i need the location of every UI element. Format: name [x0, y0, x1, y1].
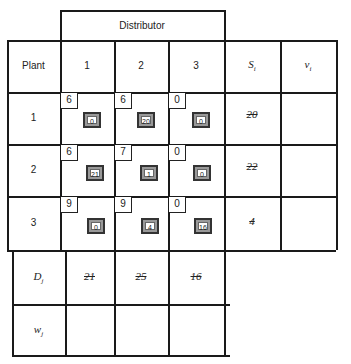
cost-cell: 7 [115, 145, 132, 161]
grid [60, 10, 224, 12]
col-header-1: 1 [60, 60, 114, 71]
allocation-box: 0 [87, 218, 105, 234]
cost-cell: 6 [115, 93, 132, 109]
w-label: wj [12, 323, 65, 338]
cost-cell: 0 [169, 93, 186, 109]
supply-value: 20 [224, 108, 280, 120]
row-label-2: 2 [7, 164, 60, 175]
allocation-box: 16 [194, 218, 212, 234]
col-header-2: 2 [114, 60, 168, 71]
plant-header: Plant [7, 60, 60, 71]
row-label-1: 1 [7, 112, 60, 123]
demand-value: 21 [65, 270, 114, 282]
allocation-box: 0 [83, 112, 101, 128]
v-header: vi [280, 58, 336, 73]
allocation-box: 20 [137, 112, 155, 128]
allocation-box: 0 [192, 112, 210, 128]
cost-cell: 6 [61, 93, 78, 109]
allocation-box: 21 [86, 165, 104, 181]
allocation-box: 1 [140, 165, 158, 181]
col-header-3: 3 [168, 60, 224, 71]
demand-label: Dj [12, 270, 65, 285]
cost-cell: 0 [169, 145, 186, 161]
demand-value: 25 [114, 270, 168, 282]
cost-cell: 9 [61, 197, 78, 213]
demand-value: 16 [168, 270, 224, 282]
distributor-header: Distributor [60, 20, 224, 31]
cost-cell: 6 [61, 145, 78, 161]
cost-cell: 0 [169, 197, 186, 213]
row-label-3: 3 [7, 217, 60, 228]
supply-header: Si [224, 58, 280, 73]
allocation-box: 0 [193, 165, 211, 181]
supply-value: 4 [224, 215, 280, 227]
allocation-box: 4 [141, 218, 159, 234]
cost-cell: 9 [115, 197, 132, 213]
supply-value: 22 [224, 160, 280, 172]
